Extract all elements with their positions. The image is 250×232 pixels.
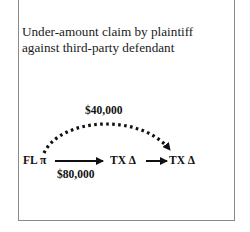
claim-diagram [0, 0, 250, 232]
dotted-arc-arrow [44, 124, 170, 153]
node-defendant: TX Δ [110, 154, 136, 166]
node-third-party-defendant: TX Δ [169, 154, 195, 166]
node-plaintiff: FL π [23, 154, 46, 166]
arc-amount-label: $40,000 [85, 104, 122, 116]
direct-claim-amount-label: $80,000 [57, 168, 94, 180]
